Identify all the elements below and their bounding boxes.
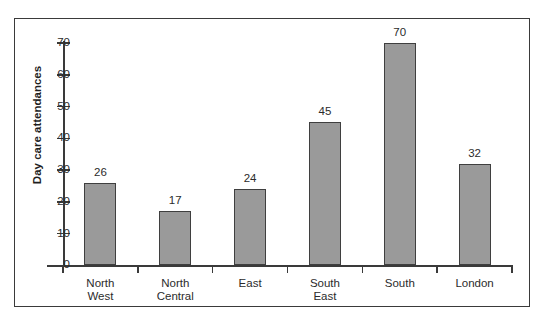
chart-frame: Day care attendances 010203040506070 261…: [14, 18, 530, 307]
x-axis-tick: [287, 265, 289, 273]
x-axis-category-label-line: Central: [130, 290, 220, 303]
bar-value-label: 32: [450, 148, 500, 160]
x-axis-tick: [137, 265, 139, 273]
y-axis-tick-label: 0: [36, 259, 70, 271]
bar: [159, 211, 191, 265]
y-axis-tick-label: 50: [36, 101, 70, 113]
bar: [84, 183, 116, 266]
x-axis-category-label: London: [430, 277, 520, 290]
x-axis-tick: [436, 265, 438, 273]
bar: [459, 164, 491, 266]
x-axis-tick: [362, 265, 364, 273]
y-axis-tick-label: 30: [36, 164, 70, 176]
plot-area: Day care attendances 010203040506070 261…: [15, 19, 529, 306]
bar: [384, 43, 416, 265]
x-axis-category-label-line: London: [430, 277, 520, 290]
bar: [234, 189, 266, 265]
x-axis-line: [47, 265, 513, 267]
bar: [309, 122, 341, 265]
y-axis-tick-label: 60: [36, 69, 70, 81]
bar-value-label: 24: [225, 173, 275, 185]
bar-value-label: 26: [75, 167, 125, 179]
bar-value-label: 17: [150, 195, 200, 207]
bar-value-label: 45: [300, 106, 350, 118]
x-axis-tick: [62, 265, 64, 273]
y-axis-tick-label: 20: [36, 196, 70, 208]
y-axis-tick-label: 70: [36, 37, 70, 49]
x-axis-tick: [511, 265, 513, 273]
y-axis-tick-label: 10: [36, 228, 70, 240]
x-axis-tick: [212, 265, 214, 273]
y-axis-tick-label: 40: [36, 132, 70, 144]
bar-value-label: 70: [375, 27, 425, 39]
x-axis-category-label-line: East: [280, 290, 370, 303]
